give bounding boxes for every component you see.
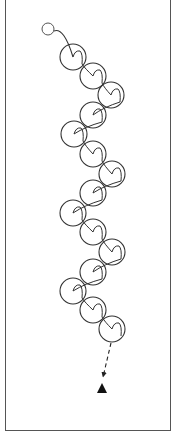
dribble-loop [93,82,124,115]
loop-connector [102,239,112,252]
start-circle [42,23,54,35]
loop-hook [112,168,121,181]
dribble-loop [73,180,106,213]
dashed-run-arrow [103,343,111,377]
dribble-loop [61,121,93,154]
loop-connector [93,102,120,115]
player-start-circle-icon [42,23,54,35]
loop-connector [82,298,93,310]
loop-connector [93,259,121,272]
loop-connector [82,64,93,76]
dribble-loop [73,259,106,291]
dribble-loop [60,278,93,310]
loop-hook [93,148,102,161]
loop-hook [93,266,102,279]
dribble-loop [99,316,125,342]
loop-hook [93,187,102,200]
loop-hook [93,226,102,239]
dribble-loop [74,102,106,134]
loop-hook [93,70,102,83]
cone-triangle [97,383,107,393]
loop-hook [93,304,102,317]
loop-connector [83,141,93,154]
dashed-line [103,343,111,377]
loop-hook [73,285,82,298]
drill-diagram [0,0,179,443]
dribble-loops [60,44,125,342]
loop-hook [73,51,82,64]
loop-hook [93,109,102,122]
loop-connector [82,220,93,232]
loop-hook [111,89,120,102]
dribble-loop [80,141,112,174]
loop-connector [73,200,102,213]
loop-hook [74,128,83,141]
loop-hook [112,323,121,336]
cone-triangle-icon [97,383,107,393]
loop-hook [112,246,121,259]
dribble-loop [60,44,93,76]
loop-connector [102,161,112,174]
loop-hook [73,207,82,220]
